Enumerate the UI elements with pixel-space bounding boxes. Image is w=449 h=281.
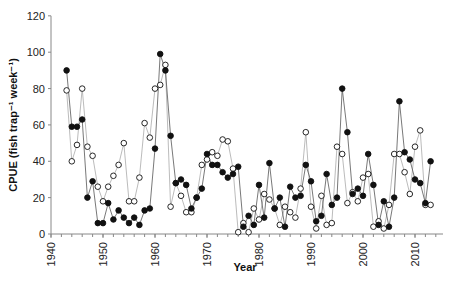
filled-circle-marker [189, 206, 195, 212]
open-circle-marker [360, 175, 366, 181]
open-circle-marker [64, 88, 70, 94]
open-circle-marker [178, 193, 184, 199]
open-circle-marker [121, 140, 127, 146]
filled-circle-marker [417, 180, 423, 186]
filled-circle-marker [90, 179, 96, 185]
filled-circle-marker [256, 182, 262, 188]
filled-circle-marker [371, 182, 377, 188]
filled-circle-marker [428, 159, 434, 165]
open-circle-marker [412, 144, 418, 150]
open-circle-marker [293, 215, 299, 221]
y-axis-title: CPUE (fish trap⁻¹ week⁻¹) [7, 58, 19, 192]
filled-circle-marker [360, 193, 366, 199]
open-circle-marker [116, 162, 122, 168]
filled-circle-marker [131, 215, 137, 221]
x-axis-title: Year [233, 261, 257, 273]
x-tick-label: 2010 [409, 242, 421, 266]
filled-circle-marker [287, 184, 293, 190]
y-tick-label: 20 [33, 192, 45, 204]
open-circle-marker [152, 86, 158, 92]
filled-circle-marker [381, 199, 387, 205]
filled-circle-marker [163, 68, 169, 74]
x-tick-label: 2000 [357, 242, 369, 266]
filled-circle-marker [386, 224, 392, 230]
y-tick-label: 120 [27, 10, 45, 22]
filled-circle-marker [157, 51, 163, 57]
filled-circle-marker [194, 195, 200, 201]
axes: 0204060801001201940195019601970198019902… [27, 10, 443, 267]
filled-circle-marker [345, 129, 351, 135]
filled-circle-marker [121, 215, 127, 221]
filled-circle-marker [215, 162, 221, 168]
open-circle-marker [111, 173, 117, 179]
filled-circle-marker [261, 215, 267, 221]
open-circle-marker [287, 209, 293, 215]
open-circle-marker [131, 199, 137, 205]
filled-circle-marker [147, 206, 153, 212]
open-circle-marker [85, 144, 91, 150]
filled-circle-marker [230, 171, 236, 177]
filled-circle-marker [225, 175, 231, 181]
filled-circle-marker [178, 177, 184, 183]
filled-circle-marker [329, 202, 335, 208]
filled-circle-marker [319, 213, 325, 219]
filled-circle-marker [173, 180, 179, 186]
filled-circle-marker [365, 151, 371, 157]
open-circle-marker [319, 193, 325, 199]
open-circle-marker [261, 191, 267, 197]
filled-circle-marker [391, 195, 397, 201]
filled-circle-marker [298, 193, 304, 199]
series-markers [64, 51, 434, 235]
open-circle-marker [282, 204, 288, 210]
open-circle-marker [168, 204, 174, 210]
filled-circle-marker [303, 162, 309, 168]
filled-circle-marker [282, 224, 288, 230]
filled-circle-marker [64, 68, 70, 74]
filled-circle-marker [199, 186, 205, 192]
filled-circle-marker [204, 151, 210, 157]
filled-circle-marker [251, 222, 257, 228]
filled-circle-marker [397, 99, 403, 105]
filled-circle-marker [350, 191, 356, 197]
open-circle-marker [329, 220, 335, 226]
filled-circle-marker [137, 222, 143, 228]
x-tick-label: 1940 [45, 242, 57, 266]
filled-circle-marker [183, 182, 189, 188]
filled-circle-marker [105, 200, 111, 206]
y-tick-label: 80 [33, 83, 45, 95]
filled-circle-marker [334, 195, 340, 201]
filled-circle-marker [412, 177, 418, 183]
filled-circle-marker [355, 186, 361, 192]
open-circle-marker [79, 86, 85, 92]
open-circle-marker [267, 197, 273, 203]
open-circle-marker [74, 142, 80, 148]
open-circle-marker [225, 139, 231, 145]
filled-circle-marker [74, 124, 80, 130]
open-circle-marker [313, 226, 319, 232]
x-tick-label: 1960 [149, 242, 161, 266]
open-circle-marker [95, 184, 101, 190]
filled-circle-marker [79, 117, 85, 123]
filled-circle-marker [235, 164, 241, 170]
open-circle-marker [417, 128, 423, 134]
open-circle-marker [407, 191, 413, 197]
open-circle-marker [246, 229, 252, 235]
open-circle-marker [204, 157, 210, 163]
filled-circle-marker [267, 160, 273, 166]
filled-circle-marker [313, 219, 319, 225]
y-tick-label: 40 [33, 155, 45, 167]
open-circle-marker [339, 151, 345, 157]
open-circle-marker [402, 169, 408, 175]
open-circle-marker [365, 171, 371, 177]
open-circle-marker [303, 129, 309, 135]
filled-circle-marker [402, 149, 408, 155]
x-tick-label: 1950 [97, 242, 109, 266]
filled-circle-marker [111, 217, 117, 223]
filled-circle-marker [277, 195, 283, 201]
open-circle-marker [235, 229, 241, 235]
filled-circle-marker [85, 195, 91, 201]
cpue-time-series-chart: 0204060801001201940195019601970198019902… [0, 0, 449, 281]
filled-circle-marker [241, 224, 247, 230]
open-circle-marker [69, 159, 75, 165]
y-tick-label: 100 [27, 46, 45, 58]
